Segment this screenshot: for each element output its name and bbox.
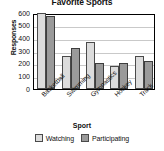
y-tick-label: 100 <box>4 73 30 80</box>
bar-watching <box>86 42 95 89</box>
bar-watching <box>135 56 144 88</box>
bar-group <box>37 13 55 89</box>
plot-area <box>33 14 155 90</box>
legend-swatch-participating <box>81 134 89 142</box>
y-tick-label: 500 <box>4 22 30 29</box>
chart-figure: Favorite Sports Responses 01002003004005… <box>0 0 164 151</box>
legend-swatch-watching <box>35 134 43 142</box>
y-tick-label: 0 <box>4 86 30 93</box>
legend-item: Watching <box>35 134 74 142</box>
y-tick-label: 200 <box>4 60 30 67</box>
bar-watching <box>62 56 71 89</box>
y-tick-label: 400 <box>4 35 30 42</box>
chart-legend: WatchingParticipating <box>0 134 164 142</box>
legend-label: Participating <box>92 135 129 142</box>
bar-watching <box>37 13 46 89</box>
y-tick-label: 600 <box>4 10 30 17</box>
bar-group <box>135 13 153 89</box>
bar-series-container <box>34 15 154 89</box>
legend-label: Watching <box>46 135 74 142</box>
y-tick-label: 300 <box>4 48 30 55</box>
legend-item: Participating <box>81 134 129 142</box>
x-axis-label: Sport <box>0 122 164 129</box>
